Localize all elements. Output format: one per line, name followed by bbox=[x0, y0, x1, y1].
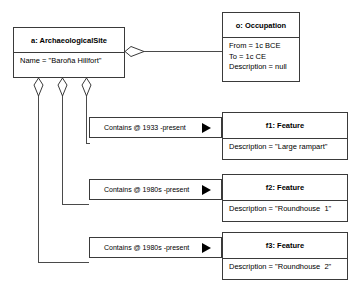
association-label-text-feature-2: Contains @ 1980s -present bbox=[90, 186, 202, 193]
attribute-description: Description = "Roundhouse 1" bbox=[229, 204, 341, 215]
aggregation-diamond-occupation bbox=[124, 44, 148, 59]
association-elbow-feature-1 bbox=[86, 143, 90, 144]
navigability-arrow-icon bbox=[202, 185, 211, 195]
navigability-arrow-icon bbox=[202, 243, 211, 253]
object-attributes-occupation: From = 1c BCE To = 1c CE Description = n… bbox=[223, 38, 299, 73]
uml-object-diagram-canvas: a: ArchaeologicalSite Name = "Baroña Hil… bbox=[0, 0, 360, 292]
aggregation-diamond-feature-1 bbox=[79, 77, 94, 99]
object-attributes-feature-2: Description = "Roundhouse 1" bbox=[223, 201, 347, 215]
object-header-feature-3: f3: Feature bbox=[223, 233, 347, 258]
association-label-text-feature-3: Contains @ 1980s -present bbox=[90, 244, 202, 251]
object-feature-1[interactable]: f1: Feature Description = "Large rampart… bbox=[222, 112, 348, 160]
object-header-feature-2: f2: Feature bbox=[223, 175, 347, 200]
attribute-name: Name = "Baroña Hillfort" bbox=[20, 56, 118, 67]
navigability-arrow-icon bbox=[202, 123, 211, 133]
association-stem-feature-2 bbox=[62, 86, 63, 205]
attribute-from: From = 1c BCE bbox=[229, 41, 293, 52]
attribute-to: To = 1c CE bbox=[229, 52, 293, 63]
object-header-feature-1: f1: Feature bbox=[223, 113, 347, 138]
object-occupation[interactable]: o: Occupation From = 1c BCE To = 1c CE D… bbox=[222, 12, 300, 82]
object-header-occupation: o: Occupation bbox=[223, 13, 299, 37]
association-label-box-feature-1[interactable]: Contains @ 1933 -present bbox=[89, 117, 222, 138]
object-header-archaeological-site: a: ArchaeologicalSite bbox=[14, 28, 124, 52]
object-feature-2[interactable]: f2: Feature Description = "Roundhouse 1" bbox=[222, 174, 348, 222]
object-attributes-feature-1: Description = "Large rampart" bbox=[223, 139, 347, 153]
association-line-site-occupation bbox=[137, 51, 222, 52]
association-label-box-feature-2[interactable]: Contains @ 1980s -present bbox=[89, 179, 222, 200]
aggregation-diamond-feature-2 bbox=[55, 77, 70, 99]
association-label-box-feature-3[interactable]: Contains @ 1980s -present bbox=[89, 237, 222, 258]
attribute-description: Description = "Roundhouse 2" bbox=[229, 262, 341, 273]
association-label-text-feature-1: Contains @ 1933 -present bbox=[90, 124, 202, 131]
object-archaeological-site[interactable]: a: ArchaeologicalSite Name = "Baroña Hil… bbox=[13, 27, 125, 78]
association-elbow-feature-2 bbox=[62, 204, 89, 205]
attribute-description: Description = null bbox=[229, 62, 293, 73]
association-stem-feature-3 bbox=[38, 86, 39, 263]
association-elbow-feature-3 bbox=[38, 262, 89, 263]
attribute-description: Description = "Large rampart" bbox=[229, 142, 341, 153]
object-feature-3[interactable]: f3: Feature Description = "Roundhouse 2" bbox=[222, 232, 348, 280]
object-attributes-feature-3: Description = "Roundhouse 2" bbox=[223, 259, 347, 273]
object-attributes-archaeological-site: Name = "Baroña Hillfort" bbox=[14, 53, 124, 67]
aggregation-diamond-feature-3 bbox=[31, 77, 46, 99]
